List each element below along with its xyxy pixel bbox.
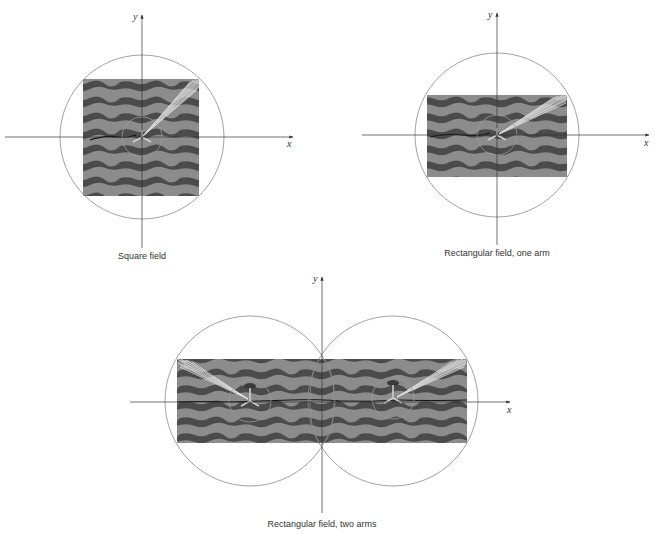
x-axis-label: x [286,138,292,149]
irrigation-field-diagram: x y Square field x y Rectangular field, … [0,0,664,534]
x-axis-label: x [643,137,649,148]
y-axis-label: y [487,9,493,20]
panel-caption: Rectangular field, two arms [267,519,377,529]
panel-rect-one-arm: x y Rectangular field, one arm [362,9,649,258]
y-axis-label: y [132,11,138,22]
y-axis-label: y [312,273,318,284]
x-axis-label: x [506,404,512,415]
panel-caption: Square field [118,251,166,261]
panel-rect-two-arms: x y Rectangular field, two arms [130,273,512,529]
panel-square-field: x y Square field [5,11,293,261]
panel-caption: Rectangular field, one arm [444,248,550,258]
